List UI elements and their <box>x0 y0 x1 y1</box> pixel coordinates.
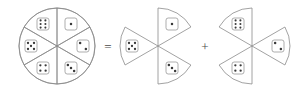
die-pip <box>171 23 174 26</box>
die-pip <box>128 42 130 44</box>
die-face-4 <box>232 62 244 74</box>
die-pip <box>44 64 46 66</box>
die-pip <box>44 69 46 71</box>
die-pip <box>70 67 73 70</box>
die-face-3 <box>166 62 178 74</box>
die-outline <box>37 62 49 74</box>
die-face-2 <box>77 40 89 52</box>
die-pip <box>33 48 35 50</box>
die-pip <box>234 69 236 71</box>
die-pip <box>79 42 82 45</box>
die-face-5 <box>126 40 138 52</box>
die-pip <box>280 48 283 51</box>
die-pip <box>131 45 133 47</box>
dice-fraction-diagram: =+ <box>0 0 307 94</box>
die-pip <box>39 69 41 71</box>
die-pip <box>239 64 241 66</box>
second-fan-group <box>219 8 290 84</box>
die-pip <box>27 42 29 44</box>
die-face-2 <box>272 40 284 52</box>
whole-circle-group <box>19 8 95 84</box>
die-pip <box>70 23 73 26</box>
die-pip <box>274 42 277 45</box>
die-pip <box>40 27 42 29</box>
die-pip <box>40 19 42 21</box>
die-pip <box>168 64 171 67</box>
die-pip <box>73 70 76 73</box>
die-pip <box>239 69 241 71</box>
operator-plus: + <box>201 39 208 54</box>
die-pip <box>30 45 32 47</box>
die-face-6 <box>232 18 244 30</box>
die-pip <box>128 48 130 50</box>
die-pip <box>239 23 241 25</box>
die-pip <box>239 27 241 29</box>
die-pip <box>67 64 70 67</box>
die-pip <box>239 19 241 21</box>
die-pip <box>44 23 46 25</box>
die-outline <box>37 18 49 30</box>
die-pip <box>234 64 236 66</box>
die-pip <box>174 70 177 73</box>
die-face-1 <box>65 18 77 30</box>
die-pip <box>134 48 136 50</box>
die-pip <box>39 64 41 66</box>
die-face-3 <box>65 62 77 74</box>
die-pip <box>44 19 46 21</box>
die-face-4 <box>37 62 49 74</box>
die-face-5 <box>25 40 37 52</box>
die-pip <box>235 23 237 25</box>
die-face-1 <box>166 18 178 30</box>
die-outline <box>232 62 244 74</box>
die-pip <box>85 48 88 51</box>
operator-equals: = <box>104 39 111 54</box>
diagram-canvas: =+ <box>0 0 307 94</box>
die-pip <box>134 42 136 44</box>
die-outline <box>272 40 284 52</box>
first-fan-group <box>120 8 191 84</box>
die-pip <box>44 27 46 29</box>
die-pip <box>33 42 35 44</box>
die-outline <box>77 40 89 52</box>
die-pip <box>171 67 174 70</box>
die-pip <box>27 48 29 50</box>
die-pip <box>235 27 237 29</box>
die-outline <box>232 18 244 30</box>
die-pip <box>40 23 42 25</box>
die-face-6 <box>37 18 49 30</box>
die-pip <box>235 19 237 21</box>
